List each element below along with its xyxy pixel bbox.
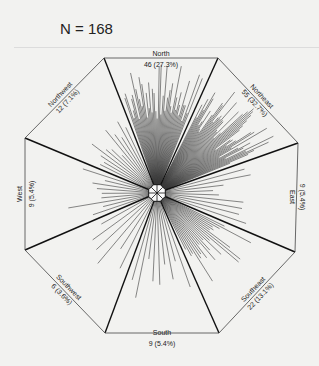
rose-diagram: North 46 (27.3%) Northeast 55 (32.7%) Ea… (0, 0, 319, 366)
svg-text:East: East (289, 190, 296, 204)
ray-fan (68, 65, 273, 298)
center-octagon (149, 185, 166, 202)
svg-text:West: West (16, 186, 23, 202)
svg-text:9 (5.4%): 9 (5.4%) (298, 184, 306, 210)
label-north: North 46 (27.3%) (144, 50, 178, 69)
svg-text:South: South (153, 329, 171, 336)
svg-text:9 (5.4%): 9 (5.4%) (28, 181, 36, 207)
svg-text:46 (27.3%): 46 (27.3%) (144, 61, 178, 69)
svg-text:9 (5.4%): 9 (5.4%) (149, 340, 175, 348)
label-south: South 9 (5.4%) (149, 329, 175, 348)
label-east: East 9 (5.4%) (289, 184, 306, 210)
svg-text:North: North (152, 50, 169, 57)
label-west: West 9 (5.4%) (16, 181, 36, 207)
